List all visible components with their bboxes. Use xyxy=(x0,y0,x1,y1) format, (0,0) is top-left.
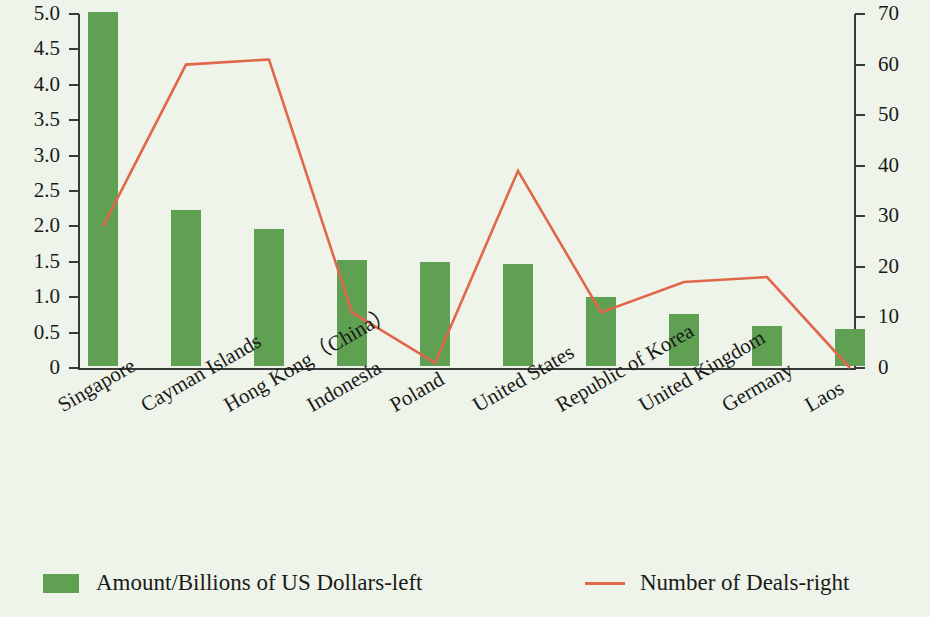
right-axis-tick xyxy=(855,114,865,116)
line-series xyxy=(78,14,856,370)
left-axis-tick-label: 1.0 xyxy=(34,286,60,307)
right-axis-tick-label: 40 xyxy=(878,155,899,176)
legend-item-amount: Amount/Billions of US Dollars-left xyxy=(43,568,422,598)
chart-figure: 00.51.01.52.02.53.03.54.04.55.0 01020304… xyxy=(0,0,930,617)
right-axis-tick-label: 20 xyxy=(878,256,899,277)
left-axis-tick-label: 5.0 xyxy=(34,3,60,24)
plot-area: 00.51.01.52.02.53.03.54.04.55.0 01020304… xyxy=(78,14,856,368)
right-axis-tick-label: 10 xyxy=(878,306,899,327)
left-axis-tick-label: 4.5 xyxy=(34,38,60,59)
deals-line-path xyxy=(103,60,850,369)
right-axis-tick-label: 30 xyxy=(878,205,899,226)
right-axis-tick-label: 70 xyxy=(878,3,899,24)
right-axis-tick xyxy=(855,316,865,318)
left-axis-tick-label: 3.0 xyxy=(34,145,60,166)
left-axis-tick-label: 0.5 xyxy=(34,322,60,343)
x-axis-category-label: Poland xyxy=(386,368,448,416)
right-axis-tick xyxy=(855,266,865,268)
right-axis-tick xyxy=(855,165,865,167)
right-axis-tick xyxy=(855,215,865,217)
left-axis-tick-label: 2.0 xyxy=(34,215,60,236)
legend-bar-swatch-icon xyxy=(43,574,79,593)
left-axis-tick-label: 3.5 xyxy=(34,109,60,130)
chart-legend: Amount/Billions of US Dollars-left Numbe… xyxy=(0,568,930,602)
right-axis-tick xyxy=(855,13,865,15)
x-axis-category-label: Laos xyxy=(801,377,847,416)
right-axis-tick-label: 50 xyxy=(878,104,899,125)
left-axis-tick-label: 1.5 xyxy=(34,251,60,272)
right-axis-tick xyxy=(855,64,865,66)
left-axis-tick-label: 4.0 xyxy=(34,74,60,95)
x-axis-category-labels: SingaporeCayman IslandsHong Kong（China）I… xyxy=(0,372,930,492)
legend-amount-label: Amount/Billions of US Dollars-left xyxy=(96,571,422,595)
right-axis-tick xyxy=(855,367,865,369)
left-axis-tick-label: 2.5 xyxy=(34,180,60,201)
legend-line-swatch-icon xyxy=(585,582,625,585)
legend-item-deals: Number of Deals-right xyxy=(585,568,850,598)
right-axis-tick-label: 60 xyxy=(878,54,899,75)
legend-deals-label: Number of Deals-right xyxy=(640,571,850,595)
